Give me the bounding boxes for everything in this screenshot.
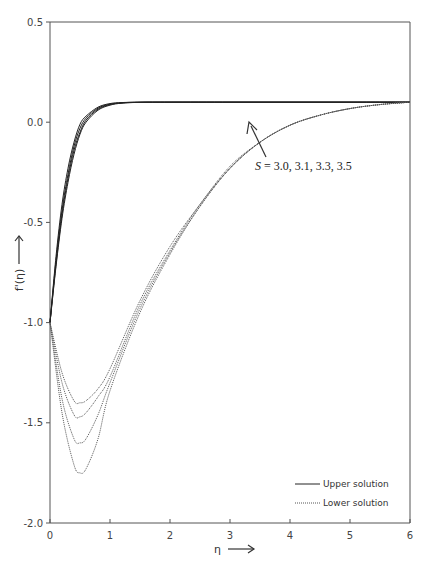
plot-frame: [50, 22, 410, 523]
upper-solution-line: [50, 102, 410, 322]
annotation: S = 3.0, 3.1, 3.3, 3.5: [247, 122, 352, 173]
upper-solution-line: [50, 102, 410, 322]
annotation-text: S = 3.0, 3.1, 3.3, 3.5: [255, 159, 352, 173]
y-tick-label: -0.5: [23, 217, 43, 228]
legend: Upper solution Lower solution: [295, 479, 389, 508]
x-tick-label: 2: [167, 530, 173, 541]
y-tick-label: 0.5: [27, 17, 43, 28]
upper-solution-line: [50, 102, 410, 322]
legend-upper-label: Upper solution: [323, 479, 389, 489]
lower-solution-line: [50, 102, 410, 403]
y-tick-label: -1.0: [23, 317, 43, 328]
annotation-arrow-line: [251, 126, 266, 157]
series-lines: [50, 102, 410, 473]
lower-solution-line: [50, 102, 410, 418]
y-tick-label: -1.5: [23, 417, 43, 428]
annotation-values: = 3.0, 3.1, 3.3, 3.5: [261, 159, 352, 173]
legend-lower-label: Lower solution: [323, 498, 388, 508]
y-tick-label: -2.0: [23, 518, 43, 529]
x-tick-label: 4: [287, 530, 293, 541]
upper-solution-line: [50, 102, 410, 322]
x-tick-label: 6: [407, 530, 413, 541]
x-tick-label: 1: [107, 530, 113, 541]
x-ticks: 0123456: [47, 519, 413, 541]
x-tick-label: 0: [47, 530, 53, 541]
x-axis-label: η: [214, 543, 254, 556]
lower-solution-line: [50, 102, 410, 443]
x-axis-label-text: η: [214, 543, 221, 556]
x-tick-label: 3: [227, 530, 233, 541]
x-tick-label: 5: [347, 530, 353, 541]
y-axis-label-text: f'(η): [13, 269, 26, 291]
chart: 0.50.0-0.5-1.0-1.5-2.0 0123456 S = 3.0, …: [0, 0, 432, 565]
y-ticks: 0.50.0-0.5-1.0-1.5-2.0: [23, 17, 50, 529]
y-axis-label: f'(η): [13, 236, 26, 291]
lower-solution-line: [50, 102, 410, 473]
y-tick-label: 0.0: [27, 117, 43, 128]
